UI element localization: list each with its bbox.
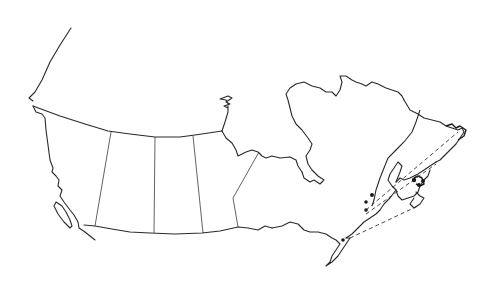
canada-outline-map xyxy=(0,0,495,286)
marker-dot xyxy=(370,193,374,197)
st-lawrence-south xyxy=(346,190,396,238)
nova-scotia xyxy=(410,192,424,208)
vancouver-island xyxy=(54,202,72,228)
marker-dot xyxy=(364,208,368,212)
bc-alberta-border xyxy=(95,132,111,226)
marker-dot xyxy=(417,183,421,187)
marker-dot xyxy=(412,178,416,182)
dashed-corridor-upper xyxy=(366,132,458,210)
newfoundland-coast xyxy=(446,124,466,140)
st-lawrence-north-shore xyxy=(396,162,436,182)
marker-dot xyxy=(364,200,368,204)
southern-ontario xyxy=(272,222,350,266)
hudson-bay-south-coast xyxy=(222,131,302,172)
labrador-coast xyxy=(404,100,464,162)
quebec-hudson-bay-coast xyxy=(286,76,404,184)
yukon-alaska-border xyxy=(29,28,71,101)
marker-dot xyxy=(421,179,425,183)
north-boundary-line xyxy=(33,106,222,137)
alberta-saskatchewan-border xyxy=(154,137,155,233)
bc-coast xyxy=(33,106,95,240)
hudson-bay-west-coast xyxy=(220,96,232,131)
manitoba-ontario-border xyxy=(233,152,259,227)
marker-dot xyxy=(341,238,345,242)
saskatchewan-manitoba-border xyxy=(193,136,203,233)
dashed-corridor-lower xyxy=(350,206,418,238)
southern-border xyxy=(84,225,272,234)
